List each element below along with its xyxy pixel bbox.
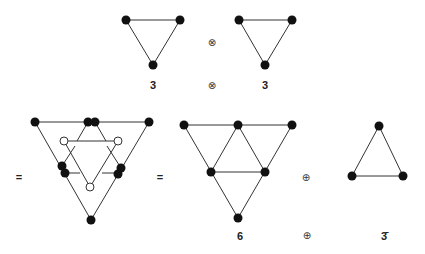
- label-3bar: 3̄: [381, 230, 389, 242]
- equals-sign-2: =: [157, 171, 163, 183]
- label-3-right: 3: [262, 79, 268, 91]
- label-6: 6: [237, 230, 243, 242]
- otimes-operator-label: ⊗: [208, 80, 216, 91]
- composite-diagram: [35, 122, 149, 220]
- triangle-6: [184, 125, 292, 218]
- triangle-3-left-nodes: [122, 16, 185, 70]
- composite-filled-nodes: [31, 118, 154, 225]
- oplus-operator: ⊕: [302, 172, 310, 183]
- triangle-3-left: [126, 20, 180, 65]
- triangle-3-right: [239, 20, 292, 65]
- equals-sign-1: =: [16, 171, 22, 183]
- triangle-3bar-nodes: [348, 122, 408, 181]
- diagram-canvas: ⊗ 3 ⊗ 3 = = ⊕ 6 ⊕ 3̄: [0, 0, 425, 254]
- triangle-3bar: [352, 126, 403, 176]
- triangle-3-right-nodes: [235, 16, 297, 70]
- oplus-operator-label: ⊕: [303, 230, 311, 241]
- label-3-left: 3: [150, 79, 156, 91]
- otimes-operator-top: ⊗: [208, 37, 216, 48]
